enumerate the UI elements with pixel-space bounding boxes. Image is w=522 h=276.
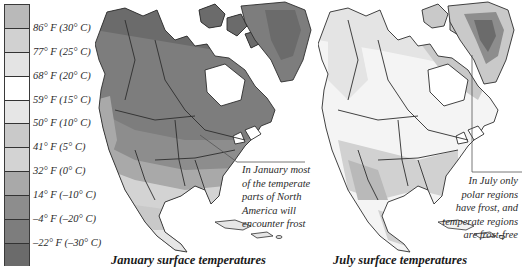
legend-label: 77° F (25° C) [33, 46, 91, 57]
annotation-line: polar regions [442, 188, 518, 202]
legend-band [5, 123, 29, 147]
legend-band [5, 52, 29, 76]
january-annotation: In January most of the temperate parts o… [242, 163, 310, 231]
annotation-line: America will [242, 204, 310, 218]
annotation-line: In January most [242, 163, 310, 177]
legend-label: –4° F (–20° C) [33, 213, 96, 224]
legend-band [5, 219, 29, 243]
july-caption: July surface temperatures [333, 253, 467, 268]
legend-label: 86° F (30° C) [33, 22, 91, 33]
january-caption: January surface temperatures [111, 253, 266, 268]
legend-band [5, 76, 29, 100]
annotation-line: parts of North [242, 190, 310, 204]
legend-band [5, 243, 29, 266]
annotation-line: encounter frost [242, 217, 310, 231]
legend-label: –22° F (–30° C) [33, 237, 101, 248]
temperature-legend [4, 4, 30, 266]
legend-band [5, 100, 29, 123]
legend-band [5, 28, 29, 52]
annotation-line: temperate regions [442, 215, 518, 229]
annotation-line: have frost, and [442, 201, 518, 215]
legend-band [5, 147, 29, 171]
annotation-line: are frost-free [442, 228, 518, 242]
july-annotation: In July only polar regions have frost, a… [442, 174, 518, 242]
annotation-line: of the temperate [242, 177, 310, 191]
legend-band [5, 195, 29, 219]
legend-band [5, 171, 29, 195]
legend-label: 59° F (15° C) [33, 94, 91, 105]
legend-label: 50° F (10° C) [33, 117, 91, 128]
legend-band [5, 5, 29, 28]
annotation-line: In July only [442, 174, 518, 188]
legend-label: 14° F (–10° C) [33, 189, 96, 200]
legend-label: 68° F (20° C) [33, 70, 91, 81]
legend-label: 32° F (0° C) [33, 165, 85, 176]
legend-label: 41° F (5° C) [33, 141, 85, 152]
